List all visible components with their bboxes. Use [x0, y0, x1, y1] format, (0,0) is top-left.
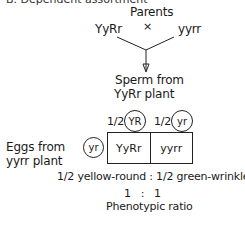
parent-left-genotype: YyRr — [95, 22, 122, 36]
punnett-square: YyRr yyrr — [107, 132, 193, 164]
sperm-gamete-yr: yr — [171, 110, 193, 132]
phenotypic-ratio: 1 : 1 — [124, 187, 161, 200]
punnett-cell-yyrr: yyrr — [150, 133, 193, 163]
sperm-fraction-1: 1/2 — [107, 115, 124, 128]
eggs-label-line2: yyrr plant — [6, 154, 62, 168]
sperm-label-line1: Sperm from — [115, 73, 184, 87]
sperm-fraction-2: 1/2 — [154, 115, 171, 128]
phenotypic-ratio-label: Phenotypic ratio — [106, 200, 193, 213]
parents-title: Parents — [130, 5, 173, 19]
phenotype-result: 1/2 yellow-round : 1/2 green-wrinkled — [57, 170, 245, 183]
sperm-label-line2: YyRr plant — [114, 87, 174, 101]
cross-lines — [0, 0, 245, 228]
eggs-label-line1: Eggs from — [6, 140, 65, 154]
parent-right-genotype: yyrr — [178, 22, 201, 36]
egg-gamete-yr: yr — [83, 137, 104, 158]
cross-symbol: × — [143, 20, 152, 33]
punnett-cell-YyRr: YyRr — [108, 133, 150, 163]
sperm-gamete-YR: YR — [124, 110, 146, 132]
